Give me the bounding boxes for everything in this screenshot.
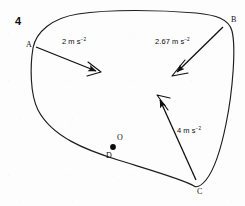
vector-label-b: 2.67 m s−2 — [155, 38, 190, 46]
vector-b-unit: m s — [172, 37, 184, 46]
figure-canvas: 4 A B C D O 2 m s−2 2.67 m s−2 4 m s−2 — [0, 0, 245, 206]
vector-label-c: 4 m s−2 — [177, 127, 201, 135]
vector-a-unit: m s — [68, 37, 80, 46]
vector-arrow-a — [36, 47, 101, 76]
vector-arrow-b — [172, 27, 223, 76]
question-number: 4 — [15, 16, 21, 27]
point-label-a: A — [26, 41, 32, 49]
point-label-c: C — [197, 188, 203, 196]
point-label-d: D — [106, 152, 112, 160]
vector-arrow-c — [157, 95, 196, 180]
point-d-marker — [110, 144, 116, 150]
point-label-o: O — [117, 134, 123, 142]
point-label-b: B — [231, 16, 237, 24]
diagram-svg — [0, 0, 245, 206]
vector-c-exponent: −2 — [196, 126, 202, 131]
vector-b-exponent: −2 — [184, 37, 190, 42]
vector-a-exponent: −2 — [81, 37, 87, 42]
vector-b-magnitude: 2.67 — [155, 37, 170, 46]
vector-c-unit: m s — [183, 126, 195, 135]
vector-label-a: 2 m s−2 — [62, 38, 86, 46]
